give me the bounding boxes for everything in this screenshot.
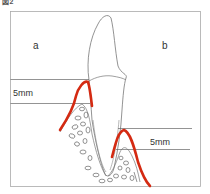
left-measurement-label: 5mm [13,88,33,98]
diagram-frame [11,12,201,187]
periodontal-diagram: a b 5mm 5mm [0,0,210,194]
region-label-b: b [162,40,168,51]
cej-line [89,76,126,81]
region-label-a: a [33,40,39,51]
left-gingiva-line [60,82,92,130]
tooth-outline [88,16,126,176]
right-measurement-label: 5mm [150,137,170,147]
